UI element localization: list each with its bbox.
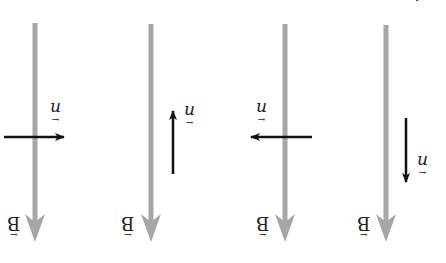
b-field-label-2: ← B xyxy=(121,214,134,238)
panel-1 xyxy=(4,23,64,242)
n-vector-label-4: ← n xyxy=(417,153,428,176)
b-field-label-3: ← B xyxy=(256,214,269,238)
b-field-label-4: ← B xyxy=(357,214,370,238)
field-diagram-svg xyxy=(0,0,446,263)
panel-3 xyxy=(251,24,312,242)
n-vector-label-2: ← n xyxy=(184,103,195,126)
b-field-label-1: ← B xyxy=(7,214,20,238)
panel-2 xyxy=(141,24,173,242)
diagram-figure: … 上 ХЕ ЗЭ ЛЧ … ← n ← n ← n ← n ← B ← B ←… xyxy=(0,0,446,263)
n-vector-label-3: ← n xyxy=(256,100,267,123)
cropped-caption: … 上 ХЕ ЗЭ ЛЧ … xyxy=(195,0,446,5)
n-vector-label-1: ← n xyxy=(50,100,61,123)
panel-4 xyxy=(376,25,406,242)
